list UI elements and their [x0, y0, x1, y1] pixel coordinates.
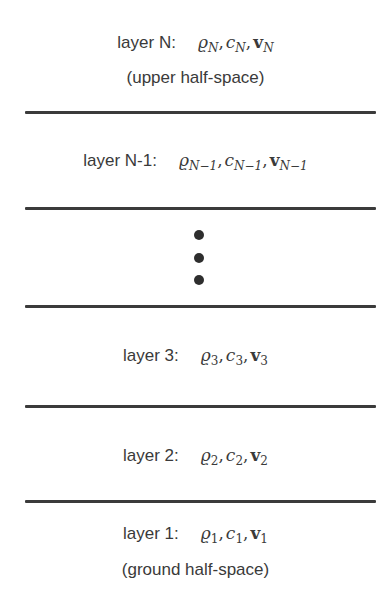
layer-n-params: ϱN,cN,vN — [198, 32, 274, 52]
velocity-subscript: N−1 — [280, 159, 308, 173]
layer-1-params: ϱ1,c1,v1 — [201, 523, 268, 543]
density-subscript: N−1 — [189, 159, 217, 173]
velocity-subscript: 2 — [260, 454, 268, 468]
separator: , — [217, 150, 222, 170]
separator: , — [218, 32, 223, 52]
sound-speed-subscript: 3 — [235, 354, 243, 368]
separator: , — [262, 150, 267, 170]
dot-icon — [194, 275, 204, 285]
sound-speed-symbol: c — [226, 445, 236, 465]
sound-speed-subscript: N−1 — [234, 159, 262, 173]
density-symbol: ϱ — [201, 345, 211, 365]
sound-speed-symbol: c — [226, 32, 236, 52]
layer-1-note-row: (ground half-space) — [0, 559, 391, 581]
layer-n-note-row: (upper half-space) — [0, 67, 391, 89]
layer-2-label: layer 2: — [123, 446, 179, 465]
velocity-symbol: v — [250, 345, 260, 365]
separator: , — [218, 445, 223, 465]
layer-2-params: ϱ2,c2,v2 — [201, 445, 268, 465]
sound-speed-subscript: N — [235, 41, 246, 55]
velocity-symbol: v — [253, 32, 263, 52]
separator: , — [246, 32, 251, 52]
density-symbol: ϱ — [179, 150, 189, 170]
layer-3-label: layer 3: — [123, 346, 179, 365]
layer-n-row: layer N:ϱN,cN,vN — [0, 31, 391, 59]
density-symbol: ϱ — [201, 523, 211, 543]
velocity-subscript: 1 — [260, 532, 268, 546]
velocity-symbol: v — [270, 150, 280, 170]
velocity-subscript: 3 — [260, 354, 268, 368]
layer-boundary-divider — [25, 405, 376, 408]
layered-medium-diagram: layer N:ϱN,cN,vN (upper half-space) laye… — [0, 0, 391, 609]
layer-3-params: ϱ3,c3,v3 — [201, 345, 268, 365]
separator: , — [243, 523, 248, 543]
sound-speed-symbol: c — [226, 523, 236, 543]
ground-half-space-note: (ground half-space) — [122, 560, 269, 579]
dot-icon — [194, 230, 204, 240]
velocity-subscript: N — [263, 41, 274, 55]
separator: , — [218, 523, 223, 543]
separator: , — [243, 345, 248, 365]
layer-boundary-divider — [25, 111, 376, 114]
velocity-symbol: v — [250, 523, 260, 543]
sound-speed-symbol: c — [225, 150, 235, 170]
sound-speed-subscript: 2 — [235, 454, 243, 468]
density-symbol: ϱ — [198, 32, 208, 52]
layer-n-minus-1-row: layer N-1:ϱN−1,cN−1,vN−1 — [0, 149, 391, 177]
layer-3-row: layer 3:ϱ3,c3,v3 — [0, 344, 391, 372]
layer-boundary-divider — [25, 305, 376, 308]
velocity-symbol: v — [250, 445, 260, 465]
density-symbol: ϱ — [201, 445, 211, 465]
layer-n-label: layer N: — [117, 33, 176, 52]
upper-half-space-note: (upper half-space) — [127, 68, 265, 87]
separator: , — [218, 345, 223, 365]
separator: , — [243, 445, 248, 465]
sound-speed-subscript: 1 — [235, 532, 243, 546]
layer-1-label: layer 1: — [123, 524, 179, 543]
layer-2-row: layer 2:ϱ2,c2,v2 — [0, 444, 391, 472]
layer-n-minus-1-label: layer N-1: — [83, 151, 157, 170]
layer-boundary-divider — [25, 500, 376, 503]
dot-icon — [194, 253, 204, 263]
density-subscript: N — [208, 41, 219, 55]
layer-1-row: layer 1:ϱ1,c1,v1 — [0, 522, 391, 550]
sound-speed-symbol: c — [226, 345, 236, 365]
layer-boundary-divider — [25, 207, 376, 210]
layer-n-minus-1-params: ϱN−1,cN−1,vN−1 — [179, 150, 308, 170]
